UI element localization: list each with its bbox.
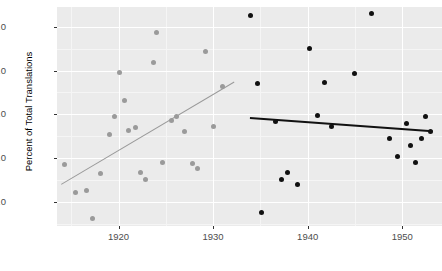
data-point [143,177,148,182]
data-point [387,136,392,141]
data-point [112,114,117,119]
data-point [273,119,278,124]
x-tick-label: 1930 [191,231,235,242]
gridline-horizontal-minor [57,224,442,225]
data-point [428,129,433,134]
data-point [160,160,165,165]
gridline-horizontal-minor [57,180,442,181]
trend-line-early-trend [61,81,235,184]
data-point [408,143,413,148]
gridline-vertical-minor [355,7,356,226]
y-axis-title: Percent of Total Translations [23,22,34,202]
gridline-vertical-major [213,7,214,226]
x-tick-label: 1920 [97,231,141,242]
data-point [195,166,200,171]
data-point [98,171,103,176]
data-point [211,124,216,129]
data-point [369,11,374,16]
data-point [419,136,424,141]
data-point [84,188,89,193]
y-tick-mark [54,202,57,203]
gridline-horizontal-minor [57,49,442,50]
x-tick-mark [402,226,403,229]
data-point [259,210,264,215]
y-tick-label: 3.0 [0,152,6,163]
data-point [73,190,78,195]
plot-panel [57,7,442,226]
data-point [307,46,312,51]
data-point [90,216,95,221]
data-point [151,60,156,65]
x-tick-label: 1940 [286,231,330,242]
gridline-vertical-major [119,7,120,226]
data-point [413,160,418,165]
data-point [352,71,357,76]
y-tick-mark [54,114,57,115]
data-point [315,113,320,118]
data-point [154,30,159,35]
gridline-horizontal-minor [57,92,442,93]
data-point [138,170,143,175]
data-point [107,132,112,137]
y-tick-label: 6.0 [0,21,6,32]
y-tick-label: 5.0 [0,65,6,76]
data-point [62,162,67,167]
gridline-horizontal-major [57,202,442,203]
data-point [329,124,334,129]
data-point [117,70,122,75]
gridline-vertical-minor [166,7,167,226]
x-tick-mark [213,226,214,229]
data-point [404,121,409,126]
data-point [122,98,127,103]
data-point [295,182,300,187]
data-point [279,177,284,182]
data-point [182,129,187,134]
gridline-vertical-minor [71,7,72,226]
y-tick-label: 2.0 [0,196,6,207]
data-point [248,13,253,18]
x-tick-label: 1950 [380,231,424,242]
scatter-plot-figure: Percent of Total Translations 2.03.04.05… [0,0,442,271]
y-tick-mark [54,71,57,72]
x-tick-mark [308,226,309,229]
data-point [126,128,131,133]
x-tick-mark [119,226,120,229]
gridline-vertical-major [308,7,309,226]
gridline-vertical-minor [260,7,261,226]
gridline-horizontal-major [57,71,442,72]
y-tick-label: 4.0 [0,108,6,119]
data-point [133,125,138,130]
y-tick-mark [54,158,57,159]
data-point [322,80,327,85]
data-point [203,49,208,54]
gridline-horizontal-minor [57,136,442,137]
data-point [255,81,260,86]
gridline-vertical-major [402,7,403,226]
data-point [190,161,195,166]
data-point [423,114,428,119]
data-point [169,118,174,123]
gridline-horizontal-major [57,27,442,28]
gridline-horizontal-major [57,158,442,159]
data-point [285,170,290,175]
data-point [174,114,179,119]
y-tick-mark [54,27,57,28]
